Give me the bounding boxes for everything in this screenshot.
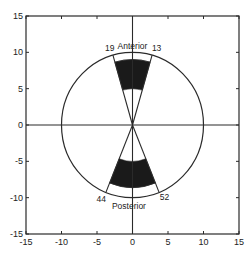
y-tick-label: -5 <box>15 156 23 166</box>
y-tick-label: 5 <box>18 84 23 94</box>
x-tick-label: 15 <box>234 237 244 247</box>
y-tick-label: -15 <box>10 229 23 239</box>
annotation-label: Anterior <box>118 41 148 51</box>
annotation-label: 44 <box>97 194 107 204</box>
x-tick-label: -10 <box>55 237 68 247</box>
polar-sector-chart: -15-10-5051015 -15-10-5051015 AnteriorPo… <box>0 0 251 257</box>
x-tick-label: -5 <box>93 237 101 247</box>
annotation-label: 52 <box>160 192 170 202</box>
x-tick-label: 0 <box>130 237 135 247</box>
y-tick-label: -10 <box>10 193 23 203</box>
x-tick-label: 5 <box>165 237 170 247</box>
y-tick-label: 0 <box>18 120 23 130</box>
y-tick-label: 10 <box>13 47 23 57</box>
annotation-label: 13 <box>152 43 162 53</box>
annotation-label: 19 <box>105 43 115 53</box>
x-tick-label: 10 <box>198 237 208 247</box>
y-tick-label: 15 <box>13 11 23 21</box>
annotation-label: Posterior <box>112 201 146 211</box>
